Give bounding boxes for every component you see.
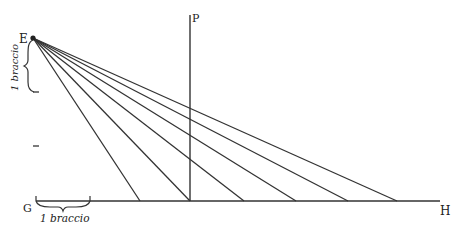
sight-rays bbox=[33, 38, 397, 201]
perspective-diagram: E P G H 1 braccio 1 braccio bbox=[0, 0, 460, 234]
label-e: E bbox=[19, 32, 28, 46]
ray-3 bbox=[33, 38, 244, 201]
ray-2 bbox=[33, 38, 190, 201]
ray-6 bbox=[33, 38, 397, 201]
horizontal-brace bbox=[36, 196, 90, 211]
measure-vertical-label: 1 braccio bbox=[9, 44, 20, 91]
vertical-brace bbox=[24, 40, 34, 92]
label-p: P bbox=[192, 12, 200, 25]
ray-4 bbox=[33, 38, 296, 201]
eye-point bbox=[30, 35, 35, 40]
label-g: G bbox=[23, 202, 32, 215]
label-h: H bbox=[440, 204, 450, 218]
measure-horizontal-label: 1 braccio bbox=[40, 212, 89, 224]
